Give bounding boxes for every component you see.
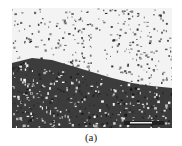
figure-panel: (a): [0, 0, 182, 146]
scale-bar: [124, 121, 164, 125]
micrograph-image: [12, 8, 172, 128]
figure-caption: (a): [0, 130, 182, 144]
